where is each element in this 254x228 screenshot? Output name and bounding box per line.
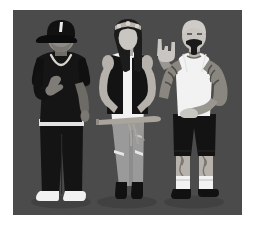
bat-knob	[96, 119, 99, 125]
sneaker-right	[63, 191, 86, 201]
ankle-boot-right	[131, 182, 143, 199]
three-characters-illustration	[13, 10, 242, 215]
crown-flower-2	[126, 21, 131, 26]
figure-middle	[96, 19, 161, 199]
shadow-middle	[97, 196, 157, 209]
ankle-boot-left	[115, 182, 127, 199]
figure-left	[32, 20, 90, 201]
crown-flower-1	[117, 24, 121, 28]
illustration-canvas: man in black cap and tee woman with flow…	[0, 0, 254, 228]
shoe-left	[171, 189, 191, 199]
shoe-right	[198, 189, 219, 197]
ground-shadows	[31, 196, 224, 209]
figure-right	[157, 20, 228, 199]
cargo-shorts	[173, 114, 216, 156]
horns-hand-gesture	[157, 39, 175, 62]
crown-flower-3	[135, 24, 139, 28]
cap-brim	[36, 35, 77, 43]
hand-right	[81, 110, 90, 122]
illustration-panel: man in black cap and tee woman with flow…	[13, 10, 242, 215]
sleeve-right	[78, 58, 90, 86]
sneaker-left	[36, 191, 59, 201]
